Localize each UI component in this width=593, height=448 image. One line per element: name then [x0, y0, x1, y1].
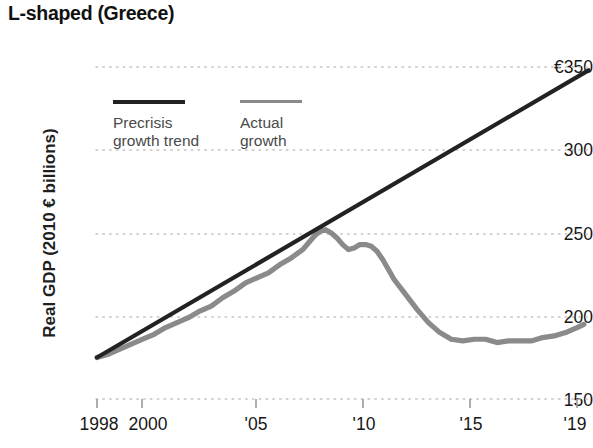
gridlines [96, 67, 592, 399]
chart-figure: L-shaped (Greece) Real GDP (2010 € billi… [0, 0, 593, 448]
plot-area [0, 0, 593, 448]
series-line-actual-growth [97, 230, 584, 358]
x-axis-tickmarks [97, 399, 577, 408]
series-line-precrisis-trend [97, 70, 588, 357]
